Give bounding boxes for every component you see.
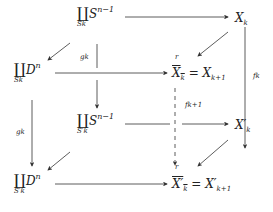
pushout-mark-lower: r [175, 163, 178, 171]
label-fk1: fk+1 [185, 101, 202, 109]
label-gk-left: gk [16, 128, 25, 136]
arrows-layer [0, 0, 273, 212]
arrow-topright-diag [198, 32, 228, 56]
node-coprod-sk-disk: ∐SkDn [14, 62, 41, 77]
node-xk-prime: X′k [235, 119, 251, 134]
node-xk-prime-bar-eq-xk1-prime: X′k = X′k+1 [172, 178, 231, 193]
arrow-topleft-diag [48, 43, 70, 60]
node-coprod-sk-prime-sphere: ∐S′kSn−1 [77, 113, 114, 128]
label-fk: fk [253, 72, 260, 80]
label-gk-upper: gk [80, 53, 89, 61]
arrow-lowerright-diag [198, 140, 228, 166]
arrow-lowerleft-diag [48, 152, 70, 170]
node-xk: Xk [235, 12, 248, 27]
pushout-mark-upper: r [175, 53, 178, 61]
node-coprod-sk-sphere: ∐SkSn−1 [77, 6, 114, 21]
node-coprod-sk-prime-disk: ∐S′kDn [14, 173, 41, 188]
node-xk-bar-eq-xk1: Xk = Xk+1 [172, 67, 226, 82]
